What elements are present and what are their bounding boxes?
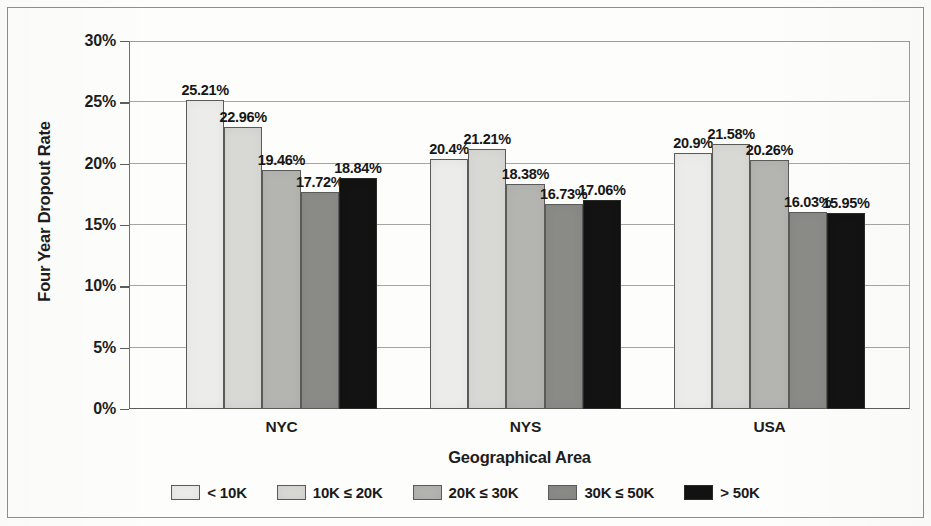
x-axis-category-nyc: NYC bbox=[265, 418, 297, 436]
bar[interactable]: 22.96% bbox=[224, 127, 262, 409]
y-axis-tick-mark bbox=[120, 286, 129, 287]
x-axis-category-nys: NYS bbox=[510, 418, 541, 436]
y-axis-tick-mark bbox=[120, 102, 129, 103]
bar[interactable]: 18.38% bbox=[506, 184, 544, 409]
legend-swatch bbox=[277, 485, 306, 500]
y-axis-tick-mark bbox=[120, 348, 129, 349]
bar[interactable]: 15.95% bbox=[827, 213, 865, 409]
bar[interactable]: 21.21% bbox=[468, 149, 506, 409]
y-axis-tick-label: 10% bbox=[46, 277, 116, 295]
legend-item[interactable]: 10K ≤ 20K bbox=[277, 484, 383, 501]
bar[interactable]: 20.9% bbox=[674, 153, 712, 409]
legend-item[interactable]: 20K ≤ 30K bbox=[413, 484, 519, 501]
bar-value-label: 19.46% bbox=[258, 152, 305, 168]
legend-label: 20K ≤ 30K bbox=[449, 484, 519, 501]
y-axis-tick-mark bbox=[120, 164, 129, 165]
bar[interactable]: 17.06% bbox=[583, 200, 621, 409]
bar[interactable]: 19.46% bbox=[262, 170, 300, 409]
legend-swatch bbox=[548, 485, 577, 500]
bar-value-label: 15.95% bbox=[822, 195, 869, 211]
bar[interactable]: 21.58% bbox=[712, 144, 750, 409]
bar[interactable]: 25.21% bbox=[186, 100, 224, 409]
plot-area: 25.21%22.96%19.46%17.72%18.84%20.4%21.21… bbox=[129, 41, 910, 409]
bar[interactable]: 16.73% bbox=[545, 204, 583, 409]
bar-value-label: 17.72% bbox=[296, 174, 343, 190]
y-axis-tick-label: 20% bbox=[46, 155, 116, 173]
bar-value-label: 22.96% bbox=[220, 109, 267, 125]
bar-value-label: 20.26% bbox=[746, 142, 793, 158]
y-axis-tick-label: 25% bbox=[46, 93, 116, 111]
y-axis-tick-mark bbox=[120, 41, 129, 42]
bar-value-label: 18.38% bbox=[502, 166, 549, 182]
legend-label: 30K ≤ 50K bbox=[584, 484, 654, 501]
x-axis-category-usa: USA bbox=[753, 418, 785, 436]
legend-swatch bbox=[684, 485, 713, 500]
y-axis-tick-label: 30% bbox=[46, 32, 116, 50]
y-axis-tick-mark bbox=[120, 409, 129, 410]
bar[interactable]: 16.03% bbox=[789, 212, 827, 409]
bar-value-label: 17.06% bbox=[578, 182, 625, 198]
legend-label: 10K ≤ 20K bbox=[313, 484, 383, 501]
bar[interactable]: 20.26% bbox=[750, 160, 788, 409]
legend-item[interactable]: 30K ≤ 50K bbox=[548, 484, 654, 501]
bar[interactable]: 20.4% bbox=[430, 159, 468, 409]
legend-item[interactable]: < 10K bbox=[171, 484, 246, 501]
y-axis-tick-mark bbox=[120, 225, 129, 226]
y-axis-tick-label: 0% bbox=[46, 400, 116, 418]
legend-swatch bbox=[413, 485, 442, 500]
legend-label: < 10K bbox=[207, 484, 246, 501]
legend-label: > 50K bbox=[720, 484, 759, 501]
bar-value-label: 18.84% bbox=[334, 160, 381, 176]
y-axis-tick-label: 5% bbox=[46, 339, 116, 357]
legend-swatch bbox=[171, 485, 200, 500]
chart-legend: < 10K10K ≤ 20K20K ≤ 30K30K ≤ 50K> 50K bbox=[0, 484, 931, 501]
bar[interactable]: 17.72% bbox=[301, 192, 339, 409]
bar-value-label: 21.58% bbox=[708, 126, 755, 142]
bar-value-label: 25.21% bbox=[181, 82, 228, 98]
chart-figure: Four Year Dropout Rate 25.21%22.96%19.46… bbox=[0, 0, 931, 526]
y-axis-tick-label: 15% bbox=[46, 216, 116, 234]
bar-value-label: 21.21% bbox=[464, 131, 511, 147]
legend-item[interactable]: > 50K bbox=[684, 484, 759, 501]
bar[interactable]: 18.84% bbox=[339, 178, 377, 409]
x-axis-title: Geographical Area bbox=[129, 448, 910, 467]
